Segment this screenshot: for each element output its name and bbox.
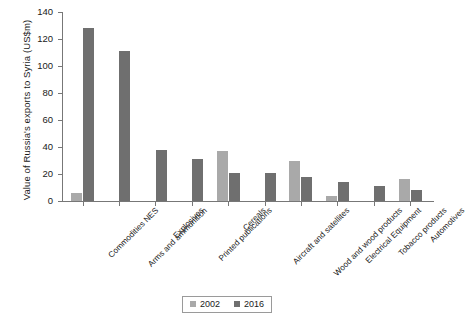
- bar-2016-5: [265, 173, 276, 201]
- bar-2002-0: [71, 193, 82, 201]
- y-tick-label: 20: [42, 168, 53, 180]
- bar-2016-2: [156, 150, 167, 201]
- y-axis-title: Value of Russia's exports to Syria (US$m…: [22, 10, 32, 210]
- y-tick-mark: [58, 120, 62, 121]
- legend-label: 2002: [200, 299, 220, 309]
- bar-2002-7: [326, 196, 337, 201]
- y-tick-label: 120: [37, 33, 53, 45]
- bar-2016-3: [192, 159, 203, 201]
- legend-item-2002: 2002: [190, 299, 220, 309]
- bar-2016-6: [301, 177, 312, 201]
- y-tick-label: 0: [48, 195, 53, 207]
- bar-2016-8: [374, 186, 385, 201]
- bar-2002-4: [217, 151, 228, 201]
- x-axis-label: Printed publications: [217, 206, 274, 263]
- y-tick-mark: [58, 201, 62, 202]
- legend-swatch-icon: [190, 301, 196, 307]
- x-axis-line: [62, 201, 434, 202]
- y-tick-mark: [58, 39, 62, 40]
- bar-2002-6: [289, 161, 300, 202]
- y-tick-mark: [58, 174, 62, 175]
- y-tick-label: 100: [37, 60, 53, 72]
- bar-2016-1: [119, 51, 130, 201]
- y-tick-label: 60: [42, 114, 53, 126]
- legend-label: 2016: [244, 299, 264, 309]
- bar-2016-9: [411, 190, 422, 201]
- legend-swatch-icon: [234, 301, 240, 307]
- y-tick-mark: [58, 66, 62, 67]
- y-tick-mark: [58, 93, 62, 94]
- y-tick-mark: [58, 147, 62, 148]
- x-axis-labels: Commodities NESArms and ammunitionExplos…: [62, 206, 441, 286]
- bar-2016-7: [338, 182, 349, 201]
- plot-area: 020406080100120140: [62, 12, 434, 202]
- bar-2002-9: [399, 179, 410, 201]
- y-tick-label: 80: [42, 87, 53, 99]
- legend-item-2016: 2016: [234, 299, 264, 309]
- y-axis-line: [62, 12, 63, 202]
- x-axis-label: Explosives: [171, 206, 205, 240]
- y-tick-label: 40: [42, 141, 53, 153]
- x-axis-label: Commodities NES: [107, 206, 161, 260]
- bar-2016-4: [229, 173, 240, 201]
- bar-2016-0: [83, 28, 94, 201]
- chart-legend: 20022016: [182, 296, 272, 313]
- y-tick-label: 140: [37, 6, 53, 18]
- y-tick-mark: [58, 12, 62, 13]
- x-axis-label: Aircraft and satellites: [291, 206, 351, 266]
